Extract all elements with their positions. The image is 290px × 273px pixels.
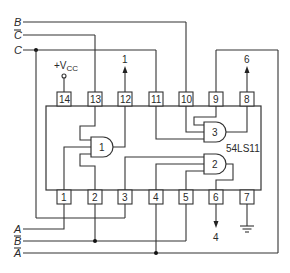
- svg-text:8: 8: [244, 94, 250, 105]
- svg-text:1: 1: [99, 142, 105, 153]
- arrow-up-icon: [245, 66, 250, 73]
- output-1-label: 1: [122, 54, 128, 65]
- signal-b-bar-label: B: [14, 235, 21, 247]
- vcc-terminal-icon: [62, 74, 66, 78]
- output-4: 4: [213, 204, 219, 243]
- output-6-label: 6: [244, 54, 250, 65]
- svg-text:5: 5: [183, 192, 189, 203]
- vcc-supply: +VCC: [54, 60, 78, 92]
- signal-b-bar-line: B: [14, 204, 186, 247]
- output-4-label: 4: [213, 232, 219, 243]
- signal-a-label: A: [13, 223, 21, 235]
- output-1: 1: [122, 54, 128, 92]
- junction-dot: [154, 251, 158, 255]
- svg-text:2: 2: [92, 192, 98, 203]
- arrow-up-icon: [123, 66, 128, 73]
- signal-b-line: B: [14, 16, 186, 92]
- signal-a-line: A: [13, 204, 64, 235]
- junction-dot: [93, 239, 97, 243]
- svg-text:14: 14: [59, 94, 71, 105]
- ground: [240, 204, 254, 232]
- svg-text:12: 12: [120, 94, 132, 105]
- arrow-down-icon: [214, 221, 219, 228]
- svg-text:13: 13: [90, 94, 102, 105]
- logic-circuit-diagram: B C C +VCC 1 6: [0, 0, 290, 273]
- svg-text:1: 1: [61, 192, 67, 203]
- signal-c-label: C: [14, 44, 22, 56]
- svg-text:4: 4: [153, 192, 159, 203]
- svg-text:3: 3: [122, 192, 128, 203]
- svg-text:7: 7: [244, 192, 250, 203]
- signal-a-bar-line: A: [13, 204, 278, 259]
- svg-text:10: 10: [181, 94, 193, 105]
- ground-icon: [240, 226, 254, 232]
- vcc-label: +VCC: [54, 60, 78, 73]
- output-6: 6: [244, 54, 250, 92]
- signal-c-bar-label: C: [14, 29, 22, 41]
- svg-text:9: 9: [213, 94, 219, 105]
- svg-text:11: 11: [151, 94, 162, 105]
- svg-text:2: 2: [212, 159, 218, 170]
- svg-text:3: 3: [212, 127, 218, 138]
- bottom-pins: 1 2 3 4 5 6 7: [57, 190, 254, 204]
- chip-part-number: 54LS11: [226, 143, 260, 154]
- svg-text:6: 6: [213, 192, 219, 203]
- signal-b-label: B: [14, 16, 21, 28]
- top-pins: 14 13 12 11 10 9 8: [57, 92, 254, 106]
- signal-a-bar-label: A: [13, 247, 21, 259]
